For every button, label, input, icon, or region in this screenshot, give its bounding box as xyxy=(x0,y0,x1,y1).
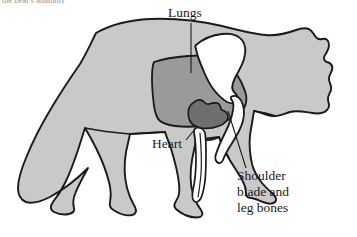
label-shoulder-blade-and-leg-bones: Shoulder blade and leg bones xyxy=(237,168,289,216)
bear-anatomy-illustration xyxy=(0,0,357,237)
label-heart: Heart xyxy=(152,137,182,152)
label-lungs: Lungs xyxy=(168,6,202,21)
anatomy-figure: the bear's anatomy xyxy=(0,0,357,237)
